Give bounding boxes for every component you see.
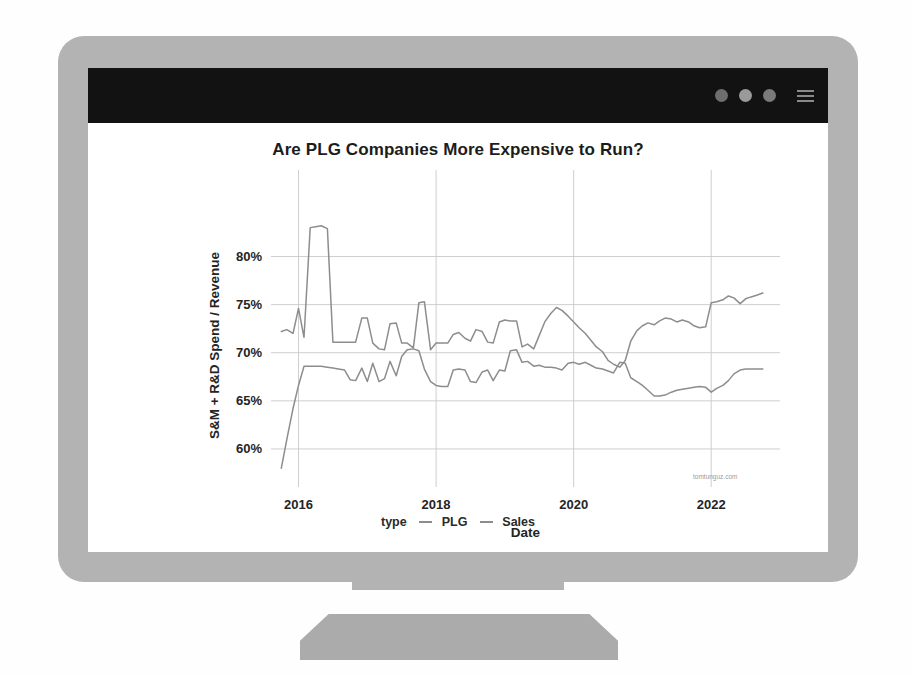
window-dot-3-icon[interactable] xyxy=(763,89,776,102)
y-tick-label: 70% xyxy=(236,345,262,360)
monitor-stand-base xyxy=(300,614,618,660)
y-tick-label: 65% xyxy=(236,393,262,408)
monitor-screen: Are PLG Companies More Expensive to Run?… xyxy=(88,68,828,552)
y-tick-label: 80% xyxy=(236,249,262,264)
x-tick-label: 2020 xyxy=(559,497,588,512)
series-line-sales xyxy=(281,349,762,468)
series-line-plg xyxy=(281,226,762,367)
x-tick-label: 2018 xyxy=(422,497,451,512)
browser-titlebar xyxy=(88,68,828,123)
y-tick-label: 60% xyxy=(236,441,262,456)
window-dot-2-icon[interactable] xyxy=(739,89,752,102)
y-axis-label: S&M + R&D Spend / Revenue xyxy=(207,251,222,439)
screenshot-canvas: Are PLG Companies More Expensive to Run?… xyxy=(0,0,912,675)
monitor-stand-neck xyxy=(352,582,564,590)
legend-swatch-plg-icon xyxy=(419,521,432,523)
x-tick-label: 2016 xyxy=(284,497,313,512)
legend-label-sales: Sales xyxy=(502,515,535,529)
y-tick-label: 75% xyxy=(236,297,262,312)
legend-title: type xyxy=(381,515,407,529)
chart-container: Are PLG Companies More Expensive to Run?… xyxy=(88,123,828,552)
hamburger-menu-icon[interactable] xyxy=(797,90,814,102)
chart-legend: type PLG Sales xyxy=(88,514,828,529)
line-chart-plot: 60%65%70%75%80%2016201820202022S&M + R&D… xyxy=(88,123,828,552)
chart-watermark: tomtunguz.com xyxy=(693,473,737,481)
x-tick-label: 2022 xyxy=(697,497,726,512)
window-dot-1-icon[interactable] xyxy=(715,89,728,102)
window-controls xyxy=(715,68,814,123)
legend-label-plg: PLG xyxy=(442,515,468,529)
legend-swatch-sales-icon xyxy=(480,521,493,523)
